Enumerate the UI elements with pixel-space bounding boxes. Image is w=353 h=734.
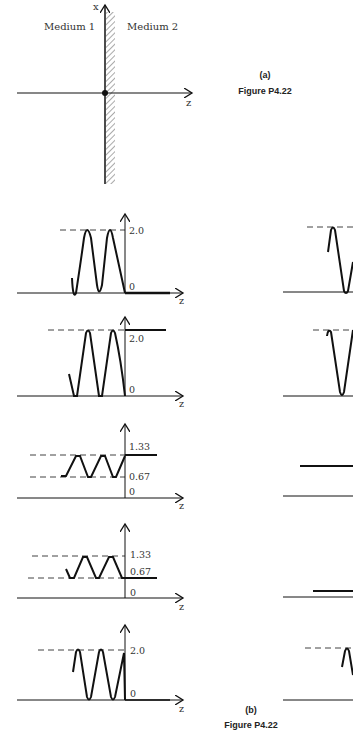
x-axis-label: x: [93, 1, 99, 12]
lower-tick-label: 0.67: [129, 471, 150, 482]
wave: [328, 228, 353, 294]
wave: [327, 330, 353, 395]
top-tick-label: 1.33: [129, 441, 150, 452]
figure-b-caption: Figure P4.22: [224, 720, 278, 730]
zero-tick-label: 0: [130, 587, 136, 598]
origin-dot: [102, 90, 108, 96]
medium-1-label: Medium 1: [44, 21, 95, 32]
lower-tick-label: 0.67: [130, 566, 151, 577]
figure-a-caption: Figure P4.22: [238, 86, 292, 96]
plot-5: 2.0 0 z: [17, 625, 184, 714]
partial-standing-wave: [61, 456, 125, 477]
interface-hatch: [106, 12, 115, 184]
z-label: z: [179, 500, 184, 511]
right-plot-3-clipped: [283, 466, 353, 496]
right-plot-4-clipped: [283, 591, 353, 597]
figure-canvas: x z Medium 1 Medium 2 (a) Figure P4.22 2…: [0, 0, 353, 734]
top-tick-label: 2.0: [129, 333, 144, 344]
partial-standing-wave: [66, 557, 125, 578]
z-axis-label: z: [186, 97, 191, 108]
z-label: z: [179, 703, 184, 714]
top-tick-label: 2.0: [129, 225, 144, 236]
plot-4: 1.33 0.67 0 z: [17, 524, 184, 612]
plot-1: 2.0 0 z: [17, 214, 184, 306]
wave: [342, 649, 353, 676]
zero-tick-label: 0: [129, 486, 135, 497]
z-label: z: [179, 398, 184, 409]
standing-wave: [69, 331, 125, 397]
plot-3: 1.33 0.67 0 z: [17, 424, 184, 511]
medium-2-label: Medium 2: [127, 21, 178, 32]
top-tick-label: 1.33: [130, 549, 151, 560]
standing-wave: [73, 650, 125, 701]
zero-tick-label: 0: [129, 281, 135, 292]
figure-b-sublabel: (b): [245, 705, 257, 715]
z-label: z: [179, 601, 184, 612]
plot-2: 2.0 0 z: [17, 317, 184, 409]
right-plot-2-clipped: [283, 330, 353, 396]
z-label: z: [179, 295, 184, 306]
figure-a: x z Medium 1 Medium 2 (a) Figure P4.22: [17, 1, 292, 184]
standing-wave: [72, 230, 125, 295]
right-plot-1-clipped: [283, 227, 353, 293]
figure-a-sublabel: (a): [260, 70, 271, 80]
right-plot-5-clipped: [283, 648, 353, 700]
zero-tick-label: 0: [129, 384, 135, 395]
top-tick-label: 2.0: [130, 645, 145, 656]
zero-tick-label: 0: [130, 688, 136, 699]
